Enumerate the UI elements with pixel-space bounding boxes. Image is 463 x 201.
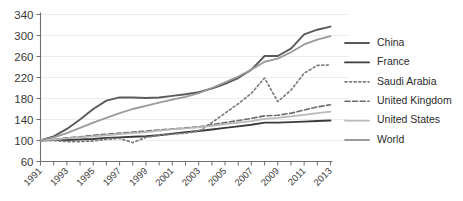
- x-tick-label: 2009: [258, 165, 281, 188]
- legend-label-china[interactable]: China: [377, 36, 405, 48]
- x-axis-group: 1991199319951997199920012003200520072009…: [21, 162, 334, 188]
- y-tick-label: 300: [14, 30, 33, 42]
- legend-label-saudi-arabia[interactable]: Saudi Arabia: [377, 75, 437, 87]
- x-tick-label: 2001: [153, 165, 176, 188]
- x-tick-label: 1999: [127, 165, 150, 188]
- x-tick-label: 1993: [48, 165, 71, 188]
- y-tick-label: 60: [21, 156, 34, 168]
- legend-label-united-states[interactable]: United States: [377, 113, 440, 125]
- legend-label-world[interactable]: World: [377, 133, 404, 145]
- y-axis-group: 60100140180220260300340: [14, 9, 40, 168]
- line-chart: 60100140180220260300340 1991199319951997…: [0, 0, 463, 201]
- y-tick-label: 140: [14, 114, 33, 126]
- y-tick-label: 340: [14, 9, 33, 21]
- y-tick-label: 220: [14, 72, 33, 84]
- series-group: [41, 27, 331, 143]
- x-tick-label: 2003: [179, 165, 202, 188]
- x-tick-label: 1995: [74, 165, 97, 188]
- x-tick-label: 2007: [232, 165, 255, 188]
- y-tick-label: 100: [14, 135, 33, 147]
- x-tick-label: 1997: [100, 165, 123, 188]
- chart-container: 60100140180220260300340 1991199319951997…: [0, 0, 463, 201]
- x-tick-label: 2011: [285, 165, 307, 187]
- series-line-china: [41, 27, 331, 141]
- series-line-saudi-arabia: [41, 65, 331, 143]
- legend-label-united-kingdom[interactable]: United Kingdom: [377, 94, 452, 106]
- legend-group: ChinaFranceSaudi ArabiaUnited KingdomUni…: [345, 36, 452, 145]
- y-tick-label: 260: [14, 51, 33, 63]
- x-tick-label: 1991: [21, 165, 44, 188]
- y-tick-label: 180: [14, 93, 33, 105]
- x-tick-label: 2013: [311, 165, 334, 188]
- x-tick-label: 2005: [206, 165, 229, 188]
- legend-label-france[interactable]: France: [377, 55, 410, 67]
